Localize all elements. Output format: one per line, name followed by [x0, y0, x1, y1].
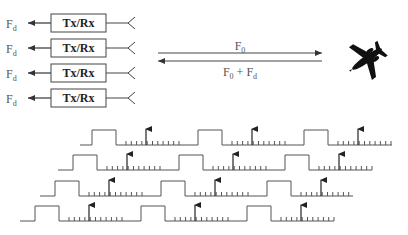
waveform-row-2: [40, 180, 353, 196]
txrx-label: Tx/Rx: [62, 66, 94, 80]
channel-output-label: Fd: [6, 17, 17, 33]
txrx-label: Tx/Rx: [62, 41, 94, 55]
airplane-icon: [338, 32, 394, 88]
channel-0: Fd Tx/Rx: [6, 14, 135, 33]
pulse-train: [80, 130, 392, 145]
channel-output-label: Fd: [6, 42, 17, 58]
antenna-icon: [128, 92, 135, 104]
channel-1: Fd Tx/Rx: [6, 39, 135, 58]
pulse-train: [58, 155, 372, 170]
channel-2: Fd Tx/Rx: [6, 64, 135, 83]
pulse-waveforms: [20, 129, 392, 221]
antenna-icon: [128, 67, 135, 79]
waveform-row-1: [58, 154, 372, 170]
txrx-label: Tx/Rx: [62, 16, 94, 30]
channel-output-label: Fd: [6, 92, 17, 108]
txrx-label: Tx/Rx: [62, 91, 94, 105]
radar-diagram: Fd Tx/Rx Fd Tx/Rx Fd Tx/Rx Fd Tx/Rx F0 F…: [0, 0, 408, 235]
waveform-row-0: [80, 129, 392, 145]
signal-path: F0 F0 + Fd: [158, 39, 322, 81]
return-label: F0 + Fd: [223, 65, 257, 81]
antenna-icon: [128, 17, 135, 29]
antenna-icon: [128, 42, 135, 54]
waveform-row-3: [20, 205, 334, 221]
channel-output-label: Fd: [6, 67, 17, 83]
channel-3: Fd Tx/Rx: [6, 89, 135, 108]
pulse-train: [20, 206, 334, 221]
